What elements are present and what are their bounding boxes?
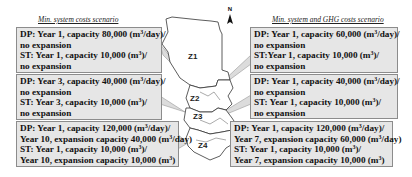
box-line: DP: Year 1, capacity 120,000 (m3/day)/: [20, 123, 175, 134]
zone-label-z1: Z1: [188, 52, 197, 61]
box-line: no expansion: [20, 61, 158, 72]
right-box-z2: DP: Year 1, capacity 40,000 (m3/day)/ no…: [250, 74, 398, 119]
zone-label-z2: Z2: [190, 94, 199, 103]
left-scenario-title: Min. system costs scenario: [38, 15, 118, 24]
callout-left-z2: [160, 96, 185, 112]
box-line: Year 7, expansion capacity 10,000 (m3): [234, 155, 389, 166]
box-line: no expansion: [20, 40, 158, 51]
box-line: no expansion: [20, 108, 158, 119]
box-line: no expansion: [20, 87, 158, 98]
box-line: no expansion: [254, 87, 394, 98]
box-line: ST: Year 1, capacity 10,000 (m3)/: [20, 144, 175, 155]
box-line: DP: Year 1, capacity 60,000 (m3/day)/: [254, 29, 394, 40]
box-line: DP: Year 3, capacity 40,000 (m3/day)/: [20, 76, 158, 87]
left-box-z1: DP: Year 1, capacity 80,000 (m3/day)/ no…: [16, 27, 162, 73]
box-line: Year 7, expansion capacity 60,000 (m3/da…: [234, 134, 389, 145]
zone-label-z3: Z3: [193, 112, 202, 121]
box-line: ST: Year 3, capacity 10,000 (m3)/: [20, 97, 158, 108]
right-box-z1: DP: Year 1, capacity 60,000 (m3/day)/ no…: [250, 27, 398, 73]
box-line: Year 10, expansion capacity 40,000 (m3/d…: [20, 134, 175, 145]
box-line: ST: Year 1, capacity 10,000 (m3)/: [20, 50, 158, 61]
box-line: ST:Year 1, capacity 10,000 (m3)/: [254, 50, 394, 61]
box-line: ST: Year 1, capacity 10,000 (m3)/: [234, 144, 389, 155]
box-line: DP: Year 1, capacity 80,000 (m3/day)/: [20, 29, 158, 40]
left-box-z3: DP: Year 1, capacity 120,000 (m3/day)/ Y…: [16, 121, 179, 167]
left-box-z2: DP: Year 3, capacity 40,000 (m3/day)/ no…: [16, 74, 162, 120]
box-line: DP: Year 1, capacity 120,000 (m3/day)/: [234, 123, 389, 134]
north-label: N: [227, 6, 233, 12]
box-line: no expansion: [254, 108, 394, 119]
box-line: DP: Year 1, capacity 40,000 (m3/day)/: [254, 76, 394, 87]
right-box-z3: DP: Year 1, capacity 120,000 (m3/day)/ Y…: [230, 121, 393, 167]
right-scenario-title: Min. system and GHG costs scenario: [272, 15, 384, 24]
box-line: no expansion: [254, 61, 394, 72]
north-arrow-icon: [227, 14, 233, 24]
box-line: ST: Year 1, capacity 10,000 (m3)/: [254, 97, 394, 108]
box-line: no expansion: [254, 40, 394, 51]
zone-label-z4: Z4: [198, 141, 207, 150]
box-line: Year 10, expansion capacity 10,000 (m3): [20, 155, 175, 166]
